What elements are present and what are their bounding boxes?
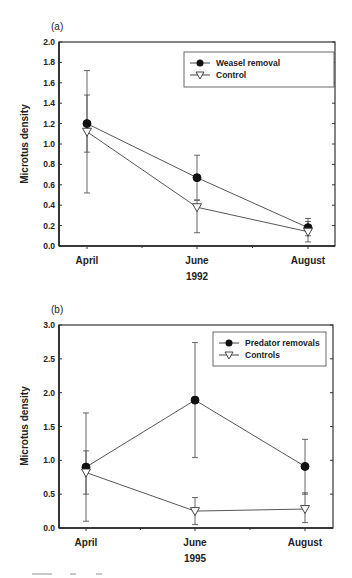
legend-filled-circle-icon	[197, 60, 204, 67]
data-point-open-triangle-icon	[304, 228, 313, 236]
y-axis-title: Microtus density	[19, 104, 30, 184]
y-tick-label: 2.0	[43, 37, 55, 47]
data-point-filled-circle-icon	[301, 462, 309, 470]
legend-entry-label: Control	[216, 70, 246, 80]
data-point-filled-circle-icon	[191, 396, 199, 404]
x-category-label: April	[76, 255, 99, 266]
data-point-open-triangle-icon	[83, 128, 92, 136]
chart-panel-a: (a)0.00.20.40.60.81.01.21.41.61.82.0Apri…	[19, 21, 335, 282]
x-axis-title: 1992	[186, 271, 209, 282]
y-axis-title: Microtus density	[19, 386, 30, 466]
y-tick-label: 0.6	[43, 180, 55, 190]
x-axis-title: 1995	[184, 553, 207, 564]
y-tick-label: 0.5	[43, 489, 55, 499]
figure-caption-cutoff	[30, 570, 330, 578]
x-category-label: August	[288, 537, 323, 548]
y-tick-label: 1.8	[43, 57, 55, 67]
legend-entry-label: Predator removals	[245, 338, 320, 348]
y-tick-label: 1.6	[43, 78, 55, 88]
chart-panel-b: (b)0.00.51.01.52.02.53.0AprilJuneAugust1…	[19, 304, 333, 564]
panel-label: (b)	[51, 304, 63, 315]
data-point-filled-circle-icon	[193, 174, 201, 182]
data-point-open-triangle-icon	[191, 508, 200, 516]
y-tick-label: 2.5	[43, 354, 55, 364]
series-control	[84, 71, 311, 242]
x-category-label: June	[183, 537, 207, 548]
y-tick-label: 1.0	[43, 455, 55, 465]
y-tick-label: 0.4	[43, 200, 55, 210]
y-tick-label: 3.0	[43, 320, 55, 330]
y-tick-label: 1.4	[43, 98, 55, 108]
y-tick-label: 2.0	[43, 388, 55, 398]
series-weasel-removal	[84, 95, 311, 236]
y-tick-label: 0.0	[43, 241, 55, 251]
data-point-filled-circle-icon	[83, 120, 91, 128]
y-tick-label: 0.8	[43, 159, 55, 169]
legend-filled-circle-icon	[226, 340, 233, 347]
y-tick-label: 0.0	[43, 523, 55, 533]
figure: (a)0.00.20.40.60.81.01.21.41.61.82.0Apri…	[0, 0, 352, 578]
legend-entry-label: Controls	[245, 350, 280, 360]
y-tick-label: 1.5	[43, 422, 55, 432]
legend: Weasel removalControl	[184, 52, 334, 87]
y-tick-label: 1.2	[43, 119, 55, 129]
panel-label: (a)	[51, 21, 63, 32]
legend-entry-label: Weasel removal	[216, 58, 280, 68]
y-tick-label: 0.2	[43, 221, 55, 231]
x-category-label: April	[75, 537, 98, 548]
x-category-label: June	[185, 255, 209, 266]
data-point-open-triangle-icon	[82, 469, 91, 477]
x-category-label: August	[291, 255, 326, 266]
y-tick-label: 1.0	[43, 139, 55, 149]
legend: Predator removalsControls	[213, 332, 326, 366]
